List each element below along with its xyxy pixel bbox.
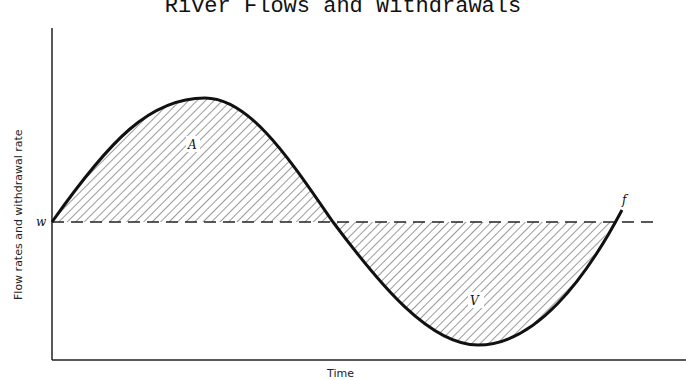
label-f: f: [621, 193, 629, 207]
label-w: w: [36, 215, 47, 229]
label-A: A: [187, 138, 197, 152]
surplus-area-A: [52, 98, 333, 222]
flow-diagram: A V w f Flow rates and withdrawal rate T…: [0, 0, 686, 380]
x-axis-label: Time: [326, 367, 354, 380]
deficit-area-V: [333, 222, 612, 345]
label-V: V: [470, 294, 480, 308]
y-axis-label: Flow rates and withdrawal rate: [12, 129, 25, 300]
